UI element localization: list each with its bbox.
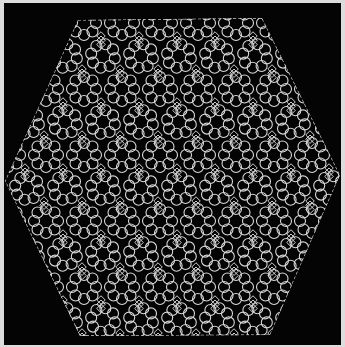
photo-frame: Photograph of a white hexagonal lace (ta…: [0, 0, 345, 347]
photo: [4, 3, 341, 345]
lace-doily: [4, 3, 341, 345]
